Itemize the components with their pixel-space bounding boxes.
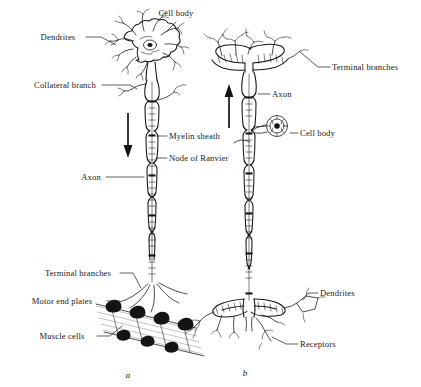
label-axon-b: Axon	[272, 89, 292, 99]
label-node-of-ranvier-a: Node of Ranvier	[169, 153, 229, 163]
label-terminal-branches-b: Terminal branches	[332, 62, 399, 72]
label-collateral-branch-a: Collateral branch	[34, 80, 97, 90]
label-receptors-b: Receptors	[300, 339, 336, 349]
label-axon-a: Axon	[81, 172, 101, 182]
caption-panel-a: a	[126, 370, 131, 380]
label-dendrites-a: Dendrites	[41, 32, 76, 42]
label-cell-body-b: Cell body	[300, 128, 336, 138]
label-terminal-branches-a: Terminal branches	[45, 268, 112, 278]
label-cell-body-a: Cell body	[158, 8, 194, 18]
caption-panel-b: b	[243, 368, 248, 378]
label-motor-end-plates-a: Motor end plates	[32, 296, 93, 306]
neuron-comparison-figure: Cell body Dendrites Collateral branch My…	[0, 0, 421, 387]
label-muscle-cells-a: Muscle cells	[40, 331, 86, 341]
label-myelin-sheath-a: Myelin sheath	[169, 131, 220, 141]
figure-background	[0, 0, 421, 387]
label-dendrites-b: Dendrites	[320, 288, 355, 298]
